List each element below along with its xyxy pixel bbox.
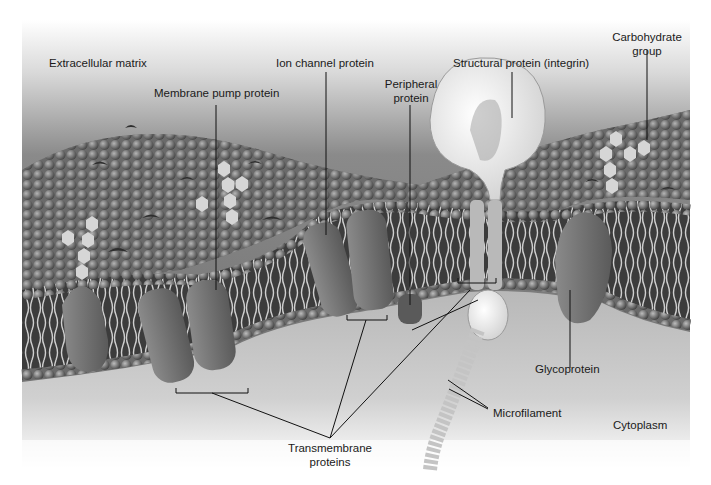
- label-carbohydrate-group-line2: group: [604, 44, 690, 58]
- label-structural-protein: Structural protein (integrin): [453, 56, 589, 70]
- label-carbohydrate-group-line1: Carbohydrate: [604, 30, 690, 44]
- label-transmembrane-proteins-line2: proteins: [280, 455, 380, 469]
- label-glycoprotein: Glycoprotein: [535, 362, 600, 376]
- label-extracellular-matrix: Extracellular matrix: [49, 56, 147, 70]
- label-peripheral-protein-line2: protein: [381, 91, 441, 105]
- label-ion-channel-protein: Ion channel protein: [276, 56, 374, 70]
- label-transmembrane-proteins-line1: Transmembrane: [280, 441, 380, 455]
- label-carbohydrate-group: Carbohydrate group: [604, 30, 690, 58]
- label-transmembrane-proteins: Transmembrane proteins: [280, 441, 380, 469]
- membrane-illustration: [0, 0, 711, 485]
- label-membrane-pump-protein: Membrane pump protein: [154, 86, 279, 100]
- label-microfilament: Microfilament: [493, 406, 561, 420]
- cell-membrane-diagram: Extracellular matrix Membrane pump prote…: [0, 0, 711, 485]
- label-peripheral-protein-line1: Peripheral: [381, 77, 441, 91]
- label-cytoplasm: Cytoplasm: [613, 418, 667, 432]
- label-peripheral-protein: Peripheral protein: [381, 77, 441, 105]
